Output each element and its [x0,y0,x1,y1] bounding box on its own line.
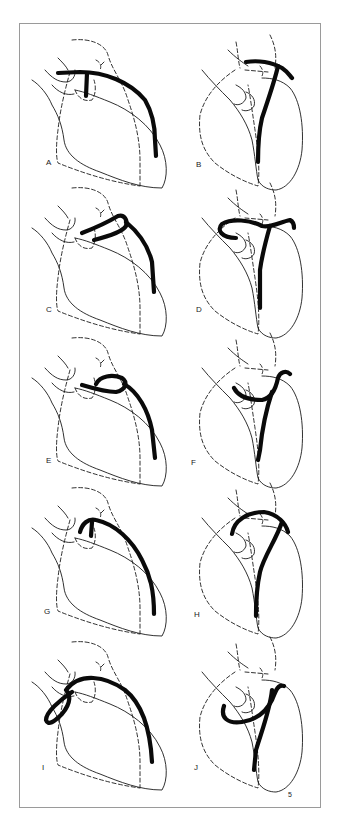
panel-label-d: D [196,305,202,314]
panel-g-cath: G [44,520,154,616]
panel-label-i: I [42,763,44,772]
panel-j [200,637,303,792]
catheter-d [220,220,294,238]
panel-d [200,183,303,338]
panel-label-b: B [196,160,201,169]
panel-a: A [32,40,166,188]
panel-b: B [196,35,303,190]
panel-label-j: J [194,763,198,772]
panel-e-cath: E [46,376,155,465]
catheter-e [82,376,125,392]
panel-c-cath: C [46,216,154,314]
panel-j-cath: J [194,686,284,772]
catheter-i [46,678,152,762]
heart-catheter-diagram: A B C D E F [0,0,338,829]
panel-label-h: H [194,610,200,619]
panel-label-e: E [46,456,51,465]
panel-h [200,483,303,638]
panel-c [32,188,166,336]
panel-label-c: C [46,305,52,314]
panel-i [32,642,166,790]
figure-number: 5 [288,791,292,798]
panel-label-a: A [46,158,52,167]
panel-g [32,488,166,636]
catheter-b [246,61,292,78]
panel-label-g: G [44,607,50,616]
panel-d-cath: D [196,220,294,314]
panel-f [200,333,303,488]
panel-label-f: F [191,458,196,467]
catheter-c [82,216,127,240]
catheter-a [58,72,156,156]
